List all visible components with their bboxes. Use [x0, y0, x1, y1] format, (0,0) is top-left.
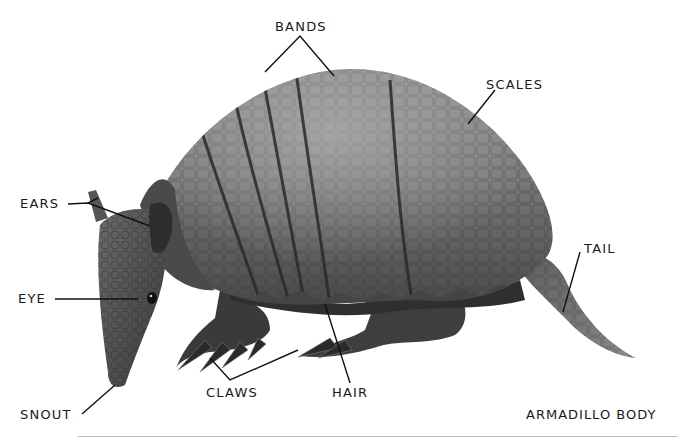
scales-leader	[468, 90, 495, 124]
armadillo-illustration	[0, 0, 692, 444]
snout-leader	[82, 385, 115, 414]
label-ears: EARS	[20, 197, 59, 210]
label-snout: SNOUT	[20, 408, 72, 421]
caption-divider	[78, 436, 678, 437]
label-hair: HAIR	[332, 386, 368, 399]
bands-leader	[265, 36, 334, 76]
label-scales: SCALES	[486, 78, 543, 91]
label-eye: EYE	[18, 292, 46, 305]
label-tail: TAIL	[584, 242, 616, 255]
eye-shape	[147, 292, 157, 304]
diagram-caption: ARMADILLO BODY	[526, 408, 656, 421]
hind-claws	[298, 338, 352, 358]
label-bands: BANDS	[275, 20, 327, 33]
label-claws: CLAWS	[206, 386, 258, 399]
armadillo-diagram: BANDS SCALES EARS EYE TAIL SNOUT CLAWS H…	[0, 0, 692, 444]
